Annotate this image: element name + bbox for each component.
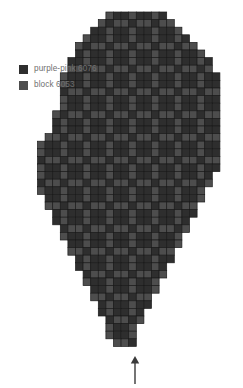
pattern-cell [144, 255, 152, 263]
pattern-cell [159, 156, 167, 164]
pattern-cell [45, 156, 53, 164]
pattern-cell [38, 141, 46, 149]
pattern-cell [76, 149, 84, 157]
pattern-cell [106, 248, 114, 256]
pattern-cell [91, 141, 99, 149]
pattern-cell [91, 217, 99, 225]
pattern-cell [190, 134, 198, 142]
pattern-cell [129, 134, 137, 142]
pattern-cell [129, 194, 137, 202]
pattern-cell [205, 179, 213, 187]
pattern-cell [212, 141, 220, 149]
pattern-cell [144, 263, 152, 271]
pattern-cell [91, 248, 99, 256]
pattern-cell [68, 149, 76, 157]
legend-swatch-purple-pink [19, 65, 28, 74]
pattern-cell [98, 141, 106, 149]
pattern-cell [68, 141, 76, 149]
pattern-cell [91, 103, 99, 111]
pattern-cell [114, 118, 122, 126]
pattern-cell [136, 73, 144, 81]
pattern-cell [114, 286, 122, 294]
pattern-cell [121, 149, 129, 157]
pattern-cell [182, 156, 190, 164]
pattern-cell [197, 179, 205, 187]
pattern-cell [129, 331, 137, 339]
pattern-cell [114, 50, 122, 58]
pattern-cell [152, 149, 160, 157]
pattern-cell [45, 141, 53, 149]
pattern-cell [106, 187, 114, 195]
pattern-cell [91, 278, 99, 286]
pattern-cell [106, 263, 114, 271]
pattern-cell [76, 210, 84, 218]
pattern-cell [152, 286, 160, 294]
pattern-grid [0, 0, 243, 388]
pattern-cell [106, 50, 114, 58]
pattern-cell [152, 172, 160, 180]
pattern-cell [91, 96, 99, 104]
pattern-cell [53, 141, 61, 149]
pattern-cell [98, 240, 106, 248]
pattern-cell [91, 210, 99, 218]
pattern-cell [60, 172, 68, 180]
pattern-cell [190, 194, 198, 202]
pattern-cell [106, 42, 114, 50]
pattern-cell [91, 172, 99, 180]
pattern-cell [106, 324, 114, 332]
pattern-cell [174, 172, 182, 180]
pattern-cell [91, 118, 99, 126]
pattern-cell [129, 50, 137, 58]
pattern-cell [53, 134, 61, 142]
legend-item: block 6053 [19, 78, 97, 92]
pattern-cell [159, 194, 167, 202]
pattern-cell [212, 149, 220, 157]
pattern-cell [152, 88, 160, 96]
pattern-cell [60, 96, 68, 104]
pattern-cell [106, 65, 114, 73]
pattern-cell [121, 202, 129, 210]
pattern-cell [182, 179, 190, 187]
pattern-cell [182, 96, 190, 104]
pattern-cell [76, 217, 84, 225]
pattern-cell [98, 248, 106, 256]
pattern-cell [98, 164, 106, 172]
pattern-cell [121, 331, 129, 339]
pattern-cell [98, 35, 106, 43]
pattern-cell [136, 111, 144, 119]
pattern-cell [167, 35, 175, 43]
pattern-cell [60, 187, 68, 195]
pattern-cell [190, 96, 198, 104]
pattern-cell [121, 88, 129, 96]
pattern-cell [60, 202, 68, 210]
pattern-cell [129, 225, 137, 233]
pattern-cell [121, 96, 129, 104]
pattern-cell [174, 50, 182, 58]
pattern-cell [60, 141, 68, 149]
pattern-cell [159, 50, 167, 58]
pattern-cell [121, 20, 129, 28]
pattern-cell [152, 225, 160, 233]
pattern-cell [68, 103, 76, 111]
pattern-cell [121, 225, 129, 233]
pattern-cell [136, 301, 144, 309]
pattern-cell [98, 179, 106, 187]
pattern-cell [197, 118, 205, 126]
pattern-cell [76, 255, 84, 263]
pattern-cell [114, 80, 122, 88]
pattern-cell [106, 58, 114, 66]
pattern-cell [121, 172, 129, 180]
pattern-cell [53, 202, 61, 210]
pattern-cell [68, 156, 76, 164]
pattern-cell [83, 187, 91, 195]
pattern-cell [38, 164, 46, 172]
pattern-cell [68, 118, 76, 126]
pattern-cell [152, 65, 160, 73]
pattern-cell [121, 217, 129, 225]
pattern-cell [159, 88, 167, 96]
pattern-cell [129, 202, 137, 210]
pattern-cell [83, 103, 91, 111]
pattern-cell [83, 232, 91, 240]
pattern-cell [98, 42, 106, 50]
pattern-cell [190, 42, 198, 50]
